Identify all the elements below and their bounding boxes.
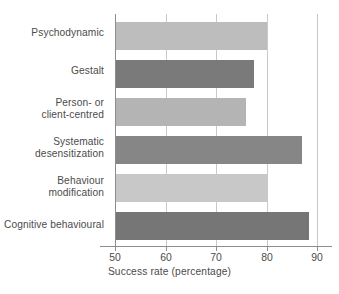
category-label-cognitive-behavioural: Cognitive behavioural	[4, 219, 104, 231]
category-label-line2: modification	[48, 187, 104, 199]
y-axis-line	[115, 14, 116, 247]
category-axis-labels: Psychodynamic Gestalt Person- or client-…	[0, 14, 110, 246]
bar-chart-figure: Psychodynamic Gestalt Person- or client-…	[0, 0, 339, 294]
bar-psychodynamic	[115, 22, 267, 50]
x-tick-label-80: 80	[252, 251, 282, 264]
x-tick-label-60: 60	[151, 251, 181, 264]
bar-gestalt	[115, 60, 254, 88]
category-label-line2: desensitization	[35, 148, 104, 160]
bar-cognitive-behavioural	[115, 212, 309, 240]
category-label-line2: client-centred	[41, 109, 104, 121]
bar-behaviour-modification	[115, 174, 267, 202]
category-label-behaviour-modification: Behaviour modification	[48, 175, 104, 198]
category-label-line1: Systematic	[53, 136, 104, 147]
category-label-line1: Psychodynamic	[31, 27, 104, 38]
bar-person-or-client-centred	[115, 98, 246, 126]
category-label-line1: Cognitive behavioural	[4, 219, 104, 230]
category-label-systematic-desensitization: Systematic desensitization	[35, 136, 104, 159]
category-label-gestalt: Gestalt	[71, 65, 104, 77]
category-label-line1: Behaviour	[57, 175, 104, 186]
x-axis-title: Success rate (percentage)	[0, 266, 339, 277]
x-tick-label-50: 50	[100, 251, 130, 264]
x-tick-label-70: 70	[201, 251, 231, 264]
category-label-person-or-client-centred: Person- or client-centred	[41, 97, 104, 120]
category-label-line1: Gestalt	[71, 65, 104, 76]
gridline-90	[317, 14, 318, 246]
x-tick-label-90: 90	[302, 251, 332, 264]
category-label-psychodynamic: Psychodynamic	[31, 27, 104, 39]
plot-area	[115, 14, 317, 246]
bar-systematic-desensitization	[115, 136, 302, 164]
category-label-line1: Person- or	[55, 97, 104, 108]
